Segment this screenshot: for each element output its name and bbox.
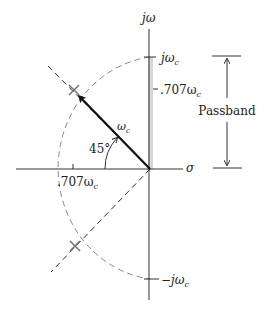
passband-label: Passband <box>198 104 256 118</box>
neg-jwc-label: −jωc <box>161 273 190 289</box>
wc-vector-label: ωc <box>117 120 130 135</box>
real-707-label: .707ωc <box>57 175 99 191</box>
jwc-label: jωc <box>158 51 180 67</box>
jw-axis-label: jω <box>139 11 156 25</box>
upper-pole-x-icon <box>69 85 79 95</box>
s-plane-diagram: jω σ jωc .707ωc −jωc .707ωc ωc 45° Passb… <box>0 0 264 311</box>
lower-pole-x-icon <box>70 241 80 251</box>
imag-707-label: .707ωc <box>160 83 202 99</box>
wc-vector-arrow <box>80 97 150 169</box>
sigma-axis-label: σ <box>186 161 195 175</box>
angle-label: 45° <box>89 142 110 156</box>
